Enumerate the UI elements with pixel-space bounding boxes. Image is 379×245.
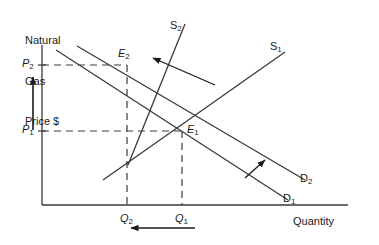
price-tick-label-p2: P2 <box>22 57 34 69</box>
y-axis-title-line2: Gas <box>25 75 60 89</box>
quantity-tick-label-q2-text: Q <box>120 212 129 224</box>
quantity-tick-label-q2-subscript: 2 <box>129 217 133 226</box>
curve-label-s1-subscript: 1 <box>277 45 281 54</box>
demand-curve-d2 <box>77 46 305 180</box>
price-tick-label-p2-subscript: 2 <box>29 62 33 71</box>
equilibrium-label-e2: E2 <box>118 47 130 59</box>
supply-curve-s2 <box>128 24 185 165</box>
demand-curves <box>56 46 305 200</box>
curve-label-s2-subscript: 2 <box>177 24 181 33</box>
equilibrium-label-e1-subscript: 1 <box>194 128 198 137</box>
x-axis-title: Quantity <box>293 215 334 229</box>
curve-label-d2: D2 <box>300 172 312 184</box>
demand-shift-arrow <box>245 160 265 178</box>
demand-curve-d1 <box>56 50 288 200</box>
supply-demand-diagram: Natural Gas Price $ Quantity S2 S1 D2 D1… <box>0 0 379 245</box>
curve-label-d2-subscript: 2 <box>308 177 312 186</box>
quantity-tick-label-q1: Q1 <box>175 212 188 224</box>
curve-label-d1: D1 <box>283 192 295 204</box>
curve-label-s2: S2 <box>170 19 182 31</box>
equilibrium-guides-e1 <box>42 131 182 205</box>
curve-label-s1: S1 <box>270 40 282 52</box>
curve-label-d1-text: D <box>283 192 291 204</box>
y-axis-title-line1: Natural <box>25 34 60 48</box>
annotation-arrows <box>33 58 265 228</box>
quantity-tick-label-q2: Q2 <box>120 212 133 224</box>
price-tick-label-p1: P1 <box>22 123 34 135</box>
equilibrium-label-e1: E1 <box>187 123 199 135</box>
equilibrium-label-e2-subscript: 2 <box>125 52 129 61</box>
curve-label-d1-subscript: 1 <box>291 197 295 206</box>
curve-label-d2-text: D <box>300 172 308 184</box>
supply-curves <box>103 24 285 180</box>
quantity-tick-label-q1-text: Q <box>175 212 184 224</box>
quantity-tick-label-q1-subscript: 1 <box>184 217 188 226</box>
price-tick-label-p1-subscript: 1 <box>29 128 33 137</box>
